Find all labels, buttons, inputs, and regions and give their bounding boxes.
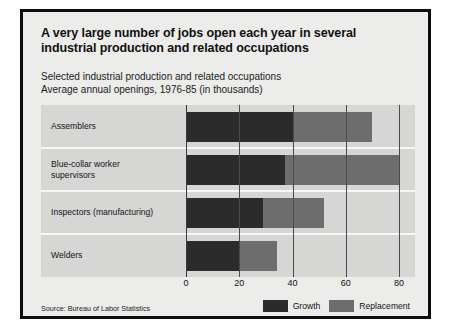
category-label: Blue-collar worker supervisors (51, 159, 120, 181)
bar-4 (186, 241, 277, 271)
poster-inner: A very large number of jobs open each ye… (23, 12, 428, 316)
bar-1 (186, 112, 372, 142)
page-title: A very large number of jobs open each ye… (41, 26, 413, 56)
legend-label: Replacement (359, 301, 410, 311)
chart-legend: GrowthReplacement (263, 300, 410, 312)
poster-frame: A very large number of jobs open each ye… (20, 9, 431, 319)
bar-3 (186, 198, 324, 228)
legend-swatch-replacement (329, 300, 354, 312)
x-tick-label-60: 60 (341, 278, 351, 288)
gridline-40 (293, 105, 294, 277)
bar-segment-growth (186, 198, 263, 228)
gridline-60 (346, 105, 347, 277)
chart-plot-area: AssemblersBlue-collar worker supervisors… (41, 105, 415, 277)
legend-swatch-growth (263, 300, 288, 312)
category-label: Welders (51, 250, 82, 261)
x-axis: 020406080 (41, 278, 415, 292)
bar-segment-growth (186, 241, 239, 271)
x-tick-label-80: 80 (394, 278, 404, 288)
row-separator (41, 147, 415, 149)
gridline-0 (186, 105, 187, 277)
bar-segment-growth (186, 155, 285, 185)
x-tick-label-40: 40 (287, 278, 297, 288)
subtitle-line-1: Selected industrial production and relat… (41, 70, 413, 83)
legend-item-growth: Growth (263, 300, 321, 312)
legend-label: Growth (293, 301, 321, 311)
x-tick-label-0: 0 (183, 278, 188, 288)
category-label: Assemblers (51, 121, 96, 132)
gridline-20 (239, 105, 240, 277)
source-note: Source: Bureau of Labor Statistics (41, 304, 150, 313)
bar-segment-replacement (293, 112, 373, 142)
bar-segment-replacement (285, 155, 399, 185)
category-label: Inspectors (manufacturing) (51, 207, 153, 218)
legend-item-replacement: Replacement (329, 300, 410, 312)
row-separator (41, 233, 415, 235)
subtitle-line-2: Average annual openings, 1976-85 (in tho… (41, 83, 413, 96)
row-separator (41, 190, 415, 192)
bar-segment-replacement (263, 198, 324, 228)
chart-subtitle: Selected industrial production and relat… (41, 70, 413, 96)
gridline-80 (399, 105, 400, 277)
x-tick-label-20: 20 (234, 278, 244, 288)
bar-segment-replacement (239, 241, 276, 271)
